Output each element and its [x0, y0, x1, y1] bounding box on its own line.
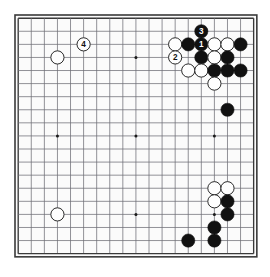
black-stone[interactable]: [221, 51, 234, 64]
move-number-label: 2: [173, 53, 178, 62]
white-stone[interactable]: [208, 195, 221, 208]
stone-black[interactable]: [221, 51, 234, 64]
stone-white[interactable]: [208, 51, 221, 64]
stone-black[interactable]: 3: [195, 25, 208, 38]
stone-black[interactable]: [221, 64, 234, 77]
black-stone[interactable]: [234, 64, 247, 77]
go-board-canvas[interactable]: 4312: [0, 0, 270, 277]
stone-white[interactable]: [208, 195, 221, 208]
stone-white[interactable]: 2: [169, 51, 182, 64]
black-stone[interactable]: [182, 234, 195, 247]
stone-white[interactable]: [208, 182, 221, 195]
stone-white[interactable]: [195, 64, 208, 77]
black-stone[interactable]: [221, 208, 234, 221]
stone-black[interactable]: [208, 234, 221, 247]
stone-white[interactable]: [51, 208, 64, 221]
stone-white[interactable]: [208, 77, 221, 90]
star-point: [134, 134, 137, 137]
go-board[interactable]: 4312: [0, 0, 270, 277]
stone-white[interactable]: [169, 38, 182, 51]
black-stone[interactable]: [208, 64, 221, 77]
stone-black[interactable]: [208, 64, 221, 77]
stone-black[interactable]: [182, 234, 195, 247]
white-stone[interactable]: [208, 38, 221, 51]
black-stone[interactable]: [234, 38, 247, 51]
white-stone[interactable]: [169, 38, 182, 51]
white-stone[interactable]: [208, 77, 221, 90]
stone-black[interactable]: [182, 38, 195, 51]
white-stone[interactable]: [221, 38, 234, 51]
stone-black[interactable]: [221, 195, 234, 208]
star-point: [134, 56, 137, 59]
black-stone[interactable]: [221, 195, 234, 208]
stone-black[interactable]: [221, 208, 234, 221]
white-stone[interactable]: [221, 182, 234, 195]
white-stone[interactable]: [51, 208, 64, 221]
star-point: [213, 213, 216, 216]
white-stone[interactable]: [208, 182, 221, 195]
black-stone[interactable]: [208, 221, 221, 234]
stone-black[interactable]: [195, 51, 208, 64]
black-stone[interactable]: [208, 234, 221, 247]
stone-white[interactable]: [221, 182, 234, 195]
star-point: [134, 213, 137, 216]
black-stone[interactable]: [195, 51, 208, 64]
go-diagram-page: 4312: [0, 0, 270, 277]
black-stone[interactable]: [221, 103, 234, 116]
stone-black[interactable]: [221, 103, 234, 116]
star-point: [56, 134, 59, 137]
move-number-label: 1: [199, 40, 204, 49]
white-stone[interactable]: [195, 64, 208, 77]
stone-white[interactable]: [221, 38, 234, 51]
stone-black[interactable]: 1: [195, 38, 208, 51]
stone-black[interactable]: [208, 221, 221, 234]
white-stone[interactable]: [182, 64, 195, 77]
stone-white[interactable]: 4: [77, 38, 90, 51]
black-stone[interactable]: [182, 38, 195, 51]
stone-white[interactable]: [182, 64, 195, 77]
stone-black[interactable]: [234, 38, 247, 51]
stone-white[interactable]: [208, 38, 221, 51]
stone-black[interactable]: [234, 64, 247, 77]
white-stone[interactable]: [51, 51, 64, 64]
white-stone[interactable]: [208, 51, 221, 64]
black-stone[interactable]: [221, 64, 234, 77]
move-number-label: 4: [81, 40, 86, 49]
star-point: [213, 134, 216, 137]
move-number-label: 3: [199, 27, 204, 36]
stone-white[interactable]: [51, 51, 64, 64]
